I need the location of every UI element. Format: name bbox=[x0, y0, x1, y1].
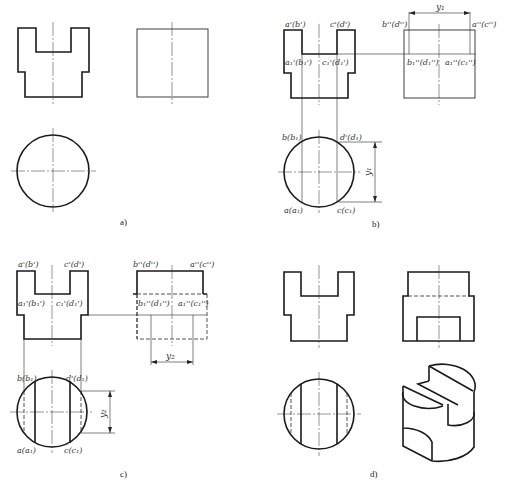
caption-c: c) bbox=[120, 469, 127, 479]
label-cp-dp: c'(d') bbox=[64, 260, 84, 269]
dimension-y2-label: y₂ bbox=[165, 351, 175, 361]
caption-a: a) bbox=[120, 217, 127, 227]
arrow-left-icon bbox=[409, 11, 415, 15]
label-c1p-d1p: c₁'(d₁') bbox=[322, 58, 349, 67]
label-a1p-b1p: a₁'(b₁') bbox=[18, 299, 45, 308]
arrow-up-icon bbox=[373, 142, 377, 148]
dimension-y1-vertical-label: y₁ bbox=[363, 167, 373, 177]
side-view-outline bbox=[403, 272, 474, 341]
arrow-down-icon bbox=[108, 427, 112, 433]
label-app-cpp: a''(c'') bbox=[472, 20, 496, 29]
label-a-a1: a(a₁) bbox=[284, 206, 303, 215]
arrow-down-icon bbox=[373, 196, 377, 202]
label-c-c1: c(c₁) bbox=[64, 446, 82, 455]
label-a1pp-c1pp: a₁''(c₁'') bbox=[178, 299, 209, 308]
arrow-up-icon bbox=[108, 391, 112, 397]
front-view-outline bbox=[18, 28, 89, 97]
label-app-cpp: a''(c'') bbox=[190, 260, 214, 269]
panel-d: d) bbox=[277, 265, 475, 479]
label-d-d1: d'(d₁) bbox=[340, 133, 362, 142]
arrow-right-icon bbox=[187, 360, 193, 364]
label-b-b1: b(b₁) bbox=[17, 374, 37, 383]
label-a1pp-c1pp: a₁''(c₁'') bbox=[445, 58, 476, 67]
panel-b: y₁ a'(b') c'(d') a₁'(b₁') c₁'(d₁') b''(d… bbox=[278, 2, 496, 229]
side-view-slot bbox=[417, 317, 460, 341]
label-cp-dp: c'(d') bbox=[330, 20, 350, 29]
label-a-a1: a(a₁) bbox=[17, 446, 36, 455]
label-c-c1: c(c₁) bbox=[337, 206, 355, 215]
label-bpp-dpp: b''(d'') bbox=[133, 260, 158, 269]
label-ap-bp: a'(b') bbox=[285, 20, 306, 29]
label-c1p-d1p: c₁'(d₁') bbox=[56, 299, 83, 308]
dimension-y1-label: y₁ bbox=[435, 2, 445, 12]
isometric-view bbox=[403, 364, 476, 461]
label-b-b1: b(b₁) bbox=[282, 133, 302, 142]
side-view-top-block bbox=[137, 271, 203, 294]
caption-d: d) bbox=[370, 469, 378, 479]
panel-c: y₂ a'(b') c'(d') a₁'(b₁') c₁'(d₁') b''(d… bbox=[10, 260, 214, 479]
label-b1pp-d1pp: b₁''(d₁'') bbox=[407, 58, 439, 67]
label-bpp-dpp: b''(d'') bbox=[382, 20, 407, 29]
engineering-drawing: a) y₁ a'(b') c'(d') a₁'(b₁') c₁'(d₁') b'… bbox=[0, 0, 505, 492]
panel-a: a) bbox=[11, 22, 208, 227]
arrow-right-icon bbox=[464, 11, 470, 15]
dimension-y2-vertical-label: y₂ bbox=[98, 409, 108, 419]
arrow-left-icon bbox=[151, 360, 157, 364]
label-d-d1: d'(d₁) bbox=[66, 374, 88, 383]
label-ap-bp: a'(b') bbox=[18, 260, 39, 269]
label-b1pp-d1pp: b₁''(d₁'') bbox=[138, 299, 170, 308]
label-a1p-b1p: a₁'(b₁') bbox=[285, 58, 312, 67]
side-view-outline bbox=[137, 29, 208, 97]
caption-b: b) bbox=[372, 219, 380, 229]
